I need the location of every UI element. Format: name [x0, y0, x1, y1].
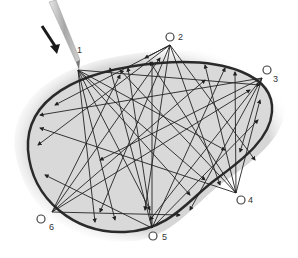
point-2-label: 2 [178, 32, 183, 42]
point-6-label: 6 [49, 222, 54, 232]
direction-arrow-icon [42, 26, 60, 54]
point-5-marker[interactable] [149, 232, 157, 240]
point-4-marker[interactable] [237, 196, 245, 204]
point-3-marker[interactable] [263, 66, 271, 74]
injection-diagram: 1 2 3 4 5 6 [0, 0, 298, 258]
point-6-marker[interactable] [37, 215, 45, 223]
point-4-label: 4 [248, 195, 253, 205]
point-1-label: 1 [77, 45, 82, 55]
point-2-marker[interactable] [166, 33, 174, 41]
point-3-label: 3 [273, 74, 278, 84]
needle-icon [49, 0, 80, 70]
point-5-label: 5 [162, 232, 167, 242]
